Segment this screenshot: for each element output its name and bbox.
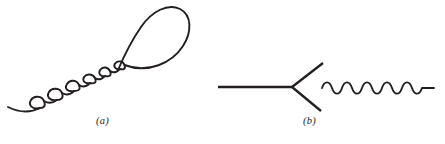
spiral-curl-6 <box>110 61 125 72</box>
wavy-line <box>322 82 434 93</box>
spiral-curl-1 <box>30 97 45 109</box>
spiral-curl-2 <box>44 89 63 103</box>
spiral-curl-5 <box>95 67 111 79</box>
spiral-curl-4 <box>79 74 96 86</box>
panel-a-drawing <box>8 7 189 111</box>
caption-panel-b: (b) <box>303 115 316 126</box>
figure-container: (a) (b) <box>0 0 445 144</box>
spiral-curl-3 <box>62 81 80 95</box>
caption-panel-a: (a) <box>96 115 109 126</box>
upper-branch-line <box>292 63 323 87</box>
lower-branch-line <box>292 87 321 111</box>
figure-drawing <box>0 0 445 144</box>
panel-b-drawing <box>218 63 434 111</box>
large-teardrop-loop-path <box>118 7 189 70</box>
